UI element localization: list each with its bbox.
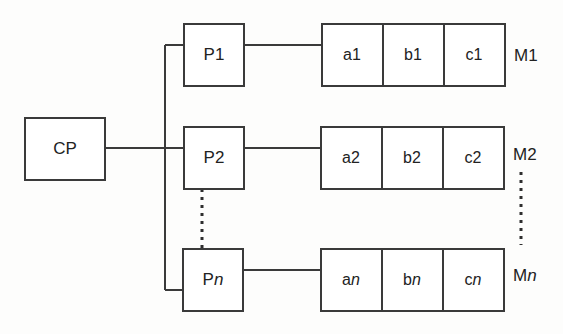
p1-label-suffix: 1	[215, 45, 224, 64]
mn-cell-b: bn	[403, 271, 421, 288]
node-pn[interactable]: Pn	[183, 249, 243, 311]
mn-row-label: Mn	[513, 266, 537, 285]
pn-label: Pn	[203, 270, 224, 289]
diagram-canvas: CP P1 P2 Pn a1 b1 c1 M1	[0, 0, 563, 334]
m1-cell-c: c1	[466, 46, 483, 63]
m2-row-label: M2	[513, 145, 537, 164]
pn-label-suffix: n	[214, 270, 223, 289]
p2-label-prefix: P	[204, 148, 215, 167]
m2-cell-c: c2	[465, 149, 482, 166]
m1-row-label: M1	[514, 46, 538, 65]
pn-label-prefix: P	[203, 270, 214, 289]
mn-cell-a: an	[342, 271, 360, 288]
memory-row-m2[interactable]: a2 b2 c2 M2	[321, 127, 537, 189]
p1-label-prefix: P	[204, 45, 215, 64]
block-diagram: CP P1 P2 Pn a1 b1 c1 M1	[0, 0, 563, 334]
p2-label-suffix: 2	[215, 148, 224, 167]
p1-label: P1	[204, 45, 225, 64]
node-p2[interactable]: P2	[184, 127, 244, 189]
memory-row-m1[interactable]: a1 b1 c1 M1	[322, 24, 538, 86]
node-p1[interactable]: P1	[184, 24, 244, 86]
m1-cell-a: a1	[343, 46, 361, 63]
m2-cell-b: b2	[403, 149, 421, 166]
m2-cell-a: a2	[342, 149, 360, 166]
node-cp[interactable]: CP	[25, 118, 105, 180]
cp-label: CP	[53, 139, 77, 158]
m1-cell-b: b1	[404, 46, 422, 63]
mn-cell-c: cn	[465, 271, 482, 288]
memory-row-mn[interactable]: an bn cn Mn	[321, 249, 537, 311]
p2-label: P2	[204, 148, 225, 167]
